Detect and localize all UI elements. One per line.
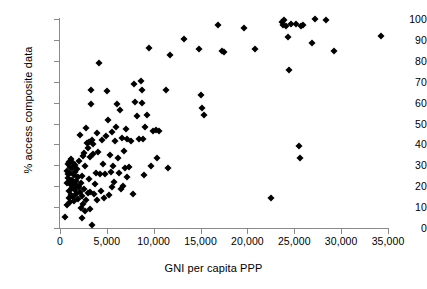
- y-tick-mark: [54, 144, 59, 145]
- x-tick-label: 0: [57, 236, 63, 247]
- x-tick-label: 20,000: [231, 236, 264, 247]
- y-axis-title: % access composite data: [22, 20, 34, 200]
- x-tick-mark: [247, 229, 248, 234]
- scatter-chart-figure: 0102030405060708090100 05,00010,00015,00…: [0, 0, 427, 289]
- x-tick-mark: [388, 229, 389, 234]
- y-tick-mark: [54, 61, 59, 62]
- x-tick-mark: [294, 229, 295, 234]
- x-tick-label: 35,000: [372, 236, 405, 247]
- x-tick-mark: [107, 229, 108, 234]
- x-tick-label: 10,000: [137, 236, 170, 247]
- x-tick-mark: [154, 229, 155, 234]
- x-tick-label: 30,000: [325, 236, 358, 247]
- x-tick-mark: [341, 229, 342, 234]
- y-tick-mark: [54, 165, 59, 166]
- x-tick-mark: [201, 229, 202, 234]
- x-tick-label: 25,000: [278, 236, 311, 247]
- x-tick-mark: [60, 229, 61, 234]
- x-tick-label: 5,000: [93, 236, 120, 247]
- y-tick-mark: [54, 124, 59, 125]
- x-tick-label: 15,000: [184, 236, 217, 247]
- y-tick-mark: [54, 19, 59, 20]
- x-axis-title: GNI per capita PPP: [0, 262, 427, 274]
- y-tick-mark: [54, 82, 59, 83]
- y-tick-mark: [54, 103, 59, 104]
- y-tick-mark: [54, 207, 59, 208]
- y-tick-mark: [54, 40, 59, 41]
- y-tick-mark: [54, 186, 59, 187]
- y-tick-mark: [54, 228, 59, 229]
- x-axis-line: [59, 228, 389, 229]
